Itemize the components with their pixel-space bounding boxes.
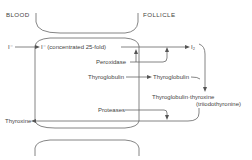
arrowhead-icon [185, 45, 190, 49]
node-peroxidase: Peroxidase [96, 59, 127, 65]
node-thyroxine: Thyroxine [5, 118, 32, 124]
node-triiodothyronine: (triiodothyronine) [196, 101, 241, 107]
region-label-blood: BLOOD [6, 11, 30, 18]
arrowhead-icon [147, 75, 152, 79]
top-membrane-outer [36, 13, 138, 33]
region-label-follicle: FOLLICLE [143, 11, 175, 18]
thyroid-diagram: BLOOD FOLLICLE I⁻ I⁻ (concentrated 25-fo… [0, 0, 252, 160]
node-iodine: I₂ [191, 44, 196, 50]
thyroglobulin-to-complex-line [191, 77, 200, 79]
arrowhead-icon [165, 115, 169, 120]
arrowhead-icon [31, 119, 36, 123]
node-iodide-concentrated: I⁻ (concentrated 25-fold) [41, 44, 106, 50]
iodine-to-complex-line [199, 44, 205, 87]
arrowhead-icon [165, 47, 169, 52]
node-iodide-blood: I⁻ [8, 44, 13, 50]
arrowhead-icon [203, 87, 207, 92]
node-thyroglobulin-thyroxine: Thyroglobulin·thyroxine [152, 94, 215, 100]
proteases-connector [125, 110, 167, 116]
bottom-membrane-inner [35, 140, 139, 156]
node-thyroglobulin-source: Thyroglobulin [88, 74, 124, 80]
node-thyroglobulin: Thyroglobulin [153, 74, 189, 80]
arrowhead-icon [134, 49, 138, 54]
arrowhead-icon [35, 45, 40, 49]
node-proteases: Proteases [98, 107, 125, 113]
bottom-membrane-outer [35, 118, 139, 128]
